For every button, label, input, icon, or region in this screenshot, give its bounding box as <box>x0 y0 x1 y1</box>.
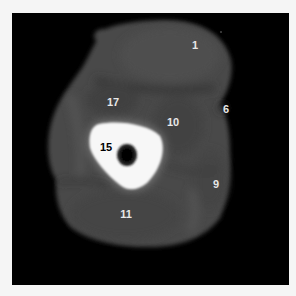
label-10: 10 <box>167 117 179 128</box>
figure: 1 6 17 10 15 9 11 <box>0 0 296 296</box>
ct-slice-graphic <box>12 13 289 285</box>
label-6: 6 <box>223 104 229 115</box>
ct-scan-image <box>12 13 289 285</box>
label-17: 17 <box>107 97 119 108</box>
label-9: 9 <box>213 179 219 190</box>
label-11: 11 <box>120 209 132 220</box>
label-1: 1 <box>192 40 198 51</box>
label-15: 15 <box>100 142 112 153</box>
